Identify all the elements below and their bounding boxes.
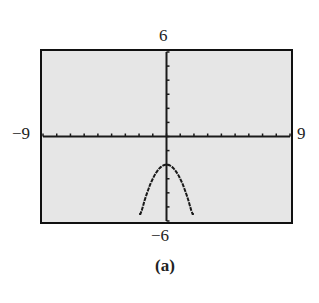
ymax-label: 6 — [159, 26, 168, 46]
graph-window — [40, 49, 293, 224]
xmax-label: 9 — [297, 124, 306, 144]
ymin-label: −6 — [151, 226, 169, 246]
xmin-label: −9 — [12, 124, 30, 144]
figure-caption: (a) — [155, 256, 175, 276]
